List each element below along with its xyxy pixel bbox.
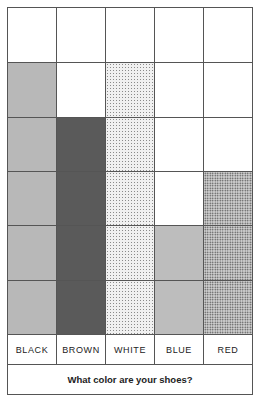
empty-square (204, 117, 252, 171)
label-white: WHITE (106, 335, 155, 364)
label-black: BLACK (8, 335, 57, 364)
filled-square (155, 225, 203, 279)
label-blue: BLUE (155, 335, 204, 364)
empty-square (155, 171, 203, 225)
filled-square (155, 280, 203, 334)
empty-square (155, 117, 203, 171)
empty-square (106, 8, 154, 62)
shoe-color-chart: BLACK BROWN WHITE BLUE RED What color ar… (7, 7, 253, 395)
bar-grid (8, 8, 252, 334)
empty-square (155, 8, 203, 62)
filled-square (106, 117, 154, 171)
filled-square (8, 225, 56, 279)
label-red: RED (204, 335, 252, 364)
empty-square (57, 62, 105, 116)
chart-question: What color are your shoes? (8, 364, 252, 394)
category-labels: BLACK BROWN WHITE BLUE RED (8, 334, 252, 364)
filled-square (8, 171, 56, 225)
filled-square (8, 62, 56, 116)
bar-blue (155, 8, 204, 334)
bar-red (204, 8, 252, 334)
filled-square (106, 62, 154, 116)
empty-square (8, 8, 56, 62)
empty-square (204, 62, 252, 116)
filled-square (106, 171, 154, 225)
filled-square (204, 225, 252, 279)
bar-brown (57, 8, 106, 334)
empty-square (204, 8, 252, 62)
filled-square (204, 171, 252, 225)
filled-square (204, 280, 252, 334)
filled-square (57, 117, 105, 171)
filled-square (57, 280, 105, 334)
filled-square (8, 117, 56, 171)
filled-square (57, 225, 105, 279)
label-brown: BROWN (57, 335, 106, 364)
filled-square (106, 280, 154, 334)
empty-square (57, 8, 105, 62)
filled-square (106, 225, 154, 279)
filled-square (8, 280, 56, 334)
empty-square (155, 62, 203, 116)
bar-white (106, 8, 155, 334)
bar-black (8, 8, 57, 334)
filled-square (57, 171, 105, 225)
